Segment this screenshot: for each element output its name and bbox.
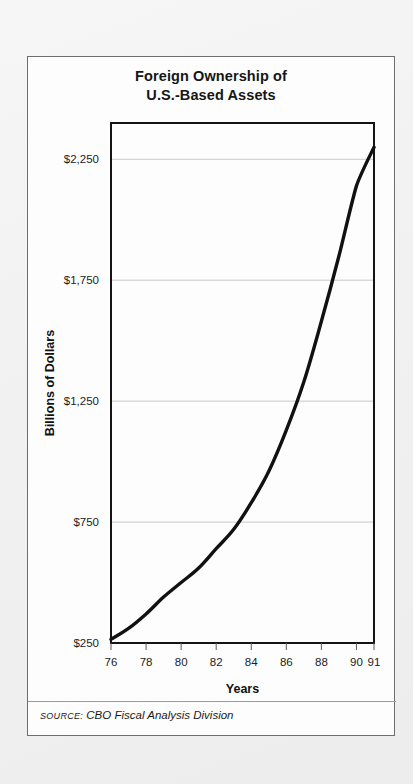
data-line-series-1 (111, 147, 374, 639)
y-axis-tick-label: $250 (73, 637, 99, 649)
x-axis-tick-label: 90 (350, 656, 363, 668)
x-axis-tick-label: 84 (245, 656, 258, 668)
figure-container: Foreign Ownership of U.S.-Based Assets $… (27, 56, 395, 736)
line-chart: $2,250$1,750$1,250$750$25076788082848688… (28, 57, 396, 737)
source-label: SOURCE: (40, 711, 83, 721)
x-axis-tick-label: 80 (175, 656, 188, 668)
x-axis-tick-label: 91 (368, 656, 381, 668)
plot-frame (111, 123, 374, 643)
y-axis-title: Billions of Dollars (43, 330, 57, 436)
x-axis-title: Years (226, 682, 259, 696)
x-axis-tick-label: 82 (210, 656, 223, 668)
y-axis-tick-label: $750 (73, 516, 99, 528)
x-axis-tick-label: 76 (105, 656, 118, 668)
source-note: SOURCE: CBO Fiscal Analysis Division (40, 709, 234, 721)
y-axis-tick-label: $2,250 (64, 153, 99, 165)
source-text: CBO Fiscal Analysis Division (86, 709, 233, 721)
x-axis-tick-label: 88 (315, 656, 328, 668)
x-axis-tick-label: 86 (280, 656, 293, 668)
plot-area: $2,250$1,750$1,250$750$25076788082848688… (28, 57, 396, 737)
source-divider (28, 701, 396, 702)
y-axis-tick-label: $1,750 (64, 274, 99, 286)
x-axis-tick-label: 78 (140, 656, 153, 668)
y-axis-tick-label: $1,250 (64, 395, 99, 407)
